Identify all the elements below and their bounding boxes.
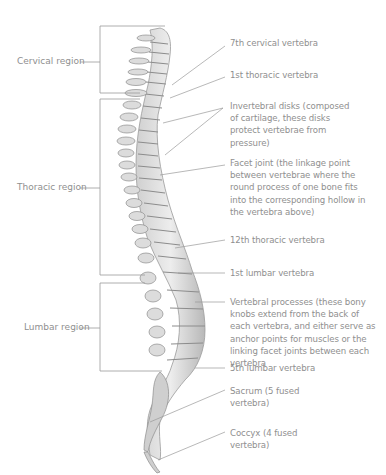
spine-diagram: Cervical region Thoracic region Lumbar r… bbox=[0, 0, 386, 475]
region-label-lumbar: Lumbar region bbox=[24, 322, 90, 332]
label-12th-thoracic-vertebra: 12th thoracic vertebra bbox=[230, 234, 325, 246]
spine-illustration bbox=[0, 0, 386, 475]
region-label-cervical: Cervical region bbox=[17, 56, 85, 66]
label-sacrum: Sacrum (5 fused vertebra) bbox=[230, 385, 300, 409]
label-7th-cervical-vertebra: 7th cervical vertebra bbox=[230, 37, 318, 49]
label-vertebral-processes: Vertebral processes (these bony knobs ex… bbox=[230, 296, 376, 369]
region-label-thoracic: Thoracic region bbox=[17, 182, 87, 192]
label-5th-lumbar-vertebra: 5th lumbar vertebra bbox=[230, 362, 315, 374]
label-1st-thoracic-vertebra: 1st thoracic vertebra bbox=[230, 69, 318, 81]
label-invertebral-disks: Invertebral disks (composed of cartilage… bbox=[230, 100, 350, 149]
label-facet-joint: Facet joint (the linkage point between v… bbox=[230, 157, 372, 218]
label-coccyx: Coccyx (4 fused vertebra) bbox=[230, 427, 300, 451]
label-1st-lumbar-vertebra: 1st lumbar vertebra bbox=[230, 267, 314, 279]
